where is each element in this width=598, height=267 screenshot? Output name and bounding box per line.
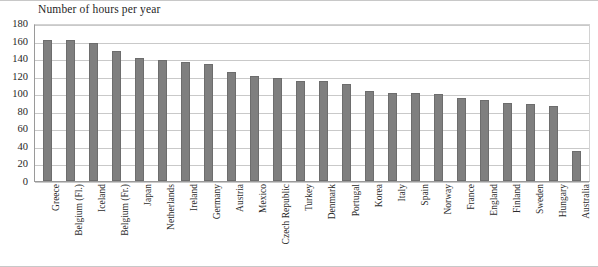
y-tick-label: 120 bbox=[12, 72, 28, 82]
plot-area bbox=[34, 24, 590, 182]
x-tick-slot: France bbox=[450, 184, 473, 267]
bar-slot bbox=[312, 25, 335, 181]
x-tick-slot: England bbox=[473, 184, 496, 267]
bar[interactable] bbox=[296, 81, 305, 181]
x-tick-slot: Spain bbox=[404, 184, 427, 267]
bar[interactable] bbox=[480, 100, 489, 181]
bar[interactable] bbox=[250, 76, 259, 181]
x-tick-slot: Mexico bbox=[243, 184, 266, 267]
bar[interactable] bbox=[135, 58, 144, 181]
bar[interactable] bbox=[43, 40, 52, 181]
bar-slot bbox=[519, 25, 542, 181]
x-tick-slot: Greece bbox=[35, 184, 58, 267]
x-tick-slot: Turkey bbox=[289, 184, 312, 267]
bar-slot bbox=[59, 25, 82, 181]
x-tick-slot: Belgium (Fl.) bbox=[58, 184, 81, 267]
y-tick-label: 180 bbox=[12, 19, 28, 29]
bar[interactable] bbox=[503, 103, 512, 181]
x-tick-slot: Ireland bbox=[173, 184, 196, 267]
y-tick-label: 160 bbox=[12, 37, 28, 47]
bar-slot bbox=[289, 25, 312, 181]
bar-slot bbox=[82, 25, 105, 181]
bar[interactable] bbox=[158, 60, 167, 181]
x-tick-slot: Portugal bbox=[335, 184, 358, 267]
x-tick-slot: Hungary bbox=[543, 184, 566, 267]
bar[interactable] bbox=[319, 81, 328, 181]
bar-slot bbox=[128, 25, 151, 181]
bar[interactable] bbox=[89, 43, 98, 181]
bar-slot bbox=[496, 25, 519, 181]
x-tick-slot: Japan bbox=[127, 184, 150, 267]
bar[interactable] bbox=[572, 151, 581, 181]
bar[interactable] bbox=[227, 72, 236, 181]
x-tick-slot: Denmark bbox=[312, 184, 335, 267]
x-tick-slot: Sweden bbox=[520, 184, 543, 267]
bar[interactable] bbox=[434, 94, 443, 181]
x-tick-slot: Belgium (Fr.) bbox=[104, 184, 127, 267]
bar[interactable] bbox=[273, 78, 282, 181]
chart-title: Number of hours per year bbox=[38, 3, 160, 15]
x-axis: GreeceBelgium (Fl.)IcelandBelgium (Fr.)J… bbox=[35, 184, 589, 267]
bar-slot bbox=[473, 25, 496, 181]
bar-slot bbox=[542, 25, 565, 181]
bar-slot bbox=[36, 25, 59, 181]
x-tick-label: Australia bbox=[581, 184, 591, 219]
bar-slot bbox=[404, 25, 427, 181]
x-tick-slot: Finland bbox=[497, 184, 520, 267]
bar[interactable] bbox=[66, 40, 75, 181]
bar[interactable] bbox=[342, 84, 351, 181]
bar-slot bbox=[197, 25, 220, 181]
bar-slot bbox=[427, 25, 450, 181]
bar[interactable] bbox=[204, 64, 213, 181]
y-tick-label: 20 bbox=[18, 159, 29, 169]
bar[interactable] bbox=[549, 106, 558, 181]
bar[interactable] bbox=[365, 91, 374, 181]
bar[interactable] bbox=[388, 93, 397, 181]
bar-slot bbox=[450, 25, 473, 181]
bar-slot bbox=[220, 25, 243, 181]
x-tick-slot: Iceland bbox=[81, 184, 104, 267]
bar[interactable] bbox=[112, 51, 121, 181]
bar-slot bbox=[105, 25, 128, 181]
bar-slot bbox=[243, 25, 266, 181]
bar[interactable] bbox=[457, 98, 466, 181]
y-tick-label: 0 bbox=[23, 177, 28, 187]
y-tick-label: 100 bbox=[12, 89, 28, 99]
x-tick-slot: Czech Republic bbox=[266, 184, 289, 267]
x-tick-slot: Italy bbox=[381, 184, 404, 267]
y-axis: 180160140120100806040200 bbox=[0, 24, 32, 182]
gridline bbox=[35, 182, 589, 183]
bar-slot bbox=[565, 25, 588, 181]
x-tick-slot: Korea bbox=[358, 184, 381, 267]
bar-slot bbox=[151, 25, 174, 181]
x-tick-slot: Austria bbox=[220, 184, 243, 267]
x-tick-slot: Australia bbox=[566, 184, 589, 267]
bars-layer bbox=[36, 25, 588, 181]
y-tick-label: 40 bbox=[18, 142, 29, 152]
y-tick-label: 140 bbox=[12, 54, 28, 64]
bar-slot bbox=[335, 25, 358, 181]
bar-slot bbox=[381, 25, 404, 181]
bar-slot bbox=[266, 25, 289, 181]
bar-slot bbox=[174, 25, 197, 181]
x-tick-slot: Netherlands bbox=[150, 184, 173, 267]
bar[interactable] bbox=[181, 62, 190, 181]
bar-chart-figure: Number of hours per year 180160140120100… bbox=[0, 0, 598, 267]
y-tick-label: 80 bbox=[18, 107, 29, 117]
bar-slot bbox=[358, 25, 381, 181]
x-tick-slot: Norway bbox=[427, 184, 450, 267]
x-tick-slot: Germany bbox=[197, 184, 220, 267]
bar[interactable] bbox=[411, 93, 420, 181]
bar[interactable] bbox=[526, 104, 535, 181]
y-tick-label: 60 bbox=[18, 124, 29, 134]
